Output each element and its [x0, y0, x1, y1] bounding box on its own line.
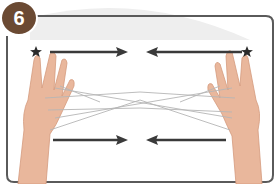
instruction-illustration: 6	[0, 0, 279, 184]
left-hand	[18, 52, 74, 184]
background-arc	[30, 8, 250, 40]
right-hand	[208, 51, 262, 184]
step-number: 6	[13, 7, 24, 30]
strings	[45, 86, 235, 130]
arrow-bottom-left-pointing	[146, 135, 226, 145]
illustration-canvas	[0, 0, 279, 184]
step-number-badge: 6	[0, 0, 38, 36]
arrow-top-right-pointing	[50, 47, 128, 57]
arrow-bottom-right-pointing	[53, 135, 128, 145]
